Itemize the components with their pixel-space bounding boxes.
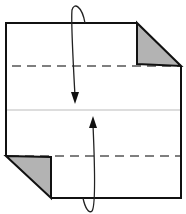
- bottom-left-flap: [6, 156, 51, 198]
- paper-outline-right-bottom: [51, 66, 181, 198]
- top-right-flap: [137, 23, 181, 66]
- origami-diagram: [0, 0, 186, 214]
- fold-down-arrow: [71, 6, 85, 104]
- paper-outline: [6, 23, 137, 156]
